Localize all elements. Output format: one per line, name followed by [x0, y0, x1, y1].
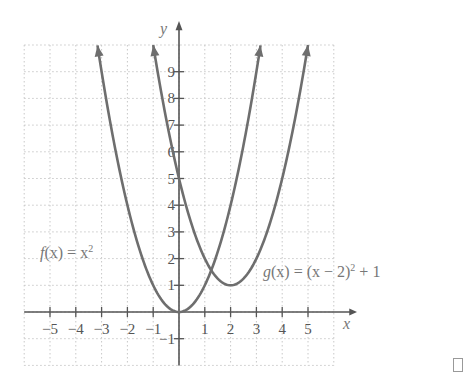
y-tick-label: 8 [168, 90, 176, 106]
checkbox-icon[interactable] [453, 358, 463, 372]
y-tick-label: 3 [168, 224, 176, 240]
y-axis-arrow-icon [176, 21, 183, 30]
x-tick-label: −5 [42, 321, 58, 337]
x-axis-arrow-icon [349, 309, 357, 316]
y-tick-label: 5 [168, 171, 176, 187]
curve-arrow-icon [151, 45, 160, 57]
x-tick-label: 3 [253, 321, 261, 337]
y-tick-label: −1 [159, 331, 175, 347]
f-function-label: f(x) = x2 [40, 244, 93, 261]
x-axis-label: x [343, 316, 350, 332]
x-tick-label: 1 [201, 321, 209, 337]
f-label-body: (x) = x [44, 244, 88, 261]
x-tick-label: 2 [227, 321, 235, 337]
x-tick-label: −2 [119, 321, 135, 337]
g-function-label: g(x) = (x − 2)2 + 1 [263, 263, 380, 280]
y-tick-label: 4 [168, 197, 176, 213]
x-tick-label: −3 [94, 321, 110, 337]
g-label-tail: + 1 [355, 263, 380, 280]
curve-arrow-icon [302, 45, 311, 57]
curve-arrow-icon [95, 45, 104, 57]
axes: −5−4−3−2−112345−1123456789 [24, 21, 357, 365]
y-tick-label: 1 [168, 277, 176, 293]
y-axis-label: y [160, 21, 167, 37]
g-label-name: g [263, 263, 271, 280]
x-tick-label: −4 [68, 321, 84, 337]
y-tick-label: 9 [168, 64, 176, 80]
y-tick-label: 2 [168, 251, 176, 267]
f-label-exponent: 2 [88, 243, 93, 254]
g-label-body: (x) = (x − 2) [271, 263, 350, 280]
x-tick-label: 4 [278, 321, 286, 337]
x-tick-label: 5 [304, 321, 312, 337]
curve-arrow-icon [254, 45, 263, 57]
